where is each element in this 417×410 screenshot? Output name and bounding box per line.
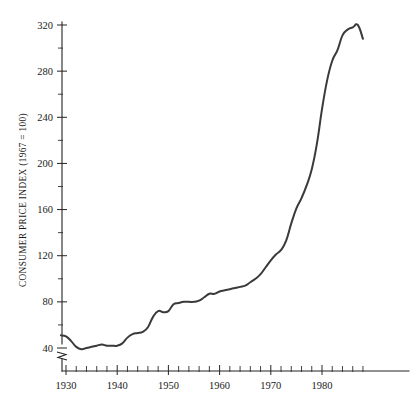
y-tick-label: 240 bbox=[37, 112, 53, 123]
x-tick-label: 1960 bbox=[209, 380, 230, 391]
cpi-chart-figure: 4080120160200240280320193019401950196019… bbox=[0, 0, 417, 410]
axes-group bbox=[57, 22, 409, 371]
y-tick-label: 320 bbox=[37, 20, 53, 31]
x-tick-label: 1930 bbox=[56, 380, 77, 391]
x-tick-label: 1950 bbox=[158, 380, 179, 391]
y-tick-label: 80 bbox=[43, 296, 54, 307]
y-tick-label: 160 bbox=[37, 204, 53, 215]
y-axis-title-text: CONSUMER PRICE INDEX (1967 = 100) bbox=[18, 113, 29, 287]
x-tick-label: 1970 bbox=[260, 380, 281, 391]
y-tick-label: 40 bbox=[43, 343, 54, 354]
tick-labels-group: 4080120160200240280320193019401950196019… bbox=[37, 20, 332, 391]
cpi-data-line bbox=[61, 24, 363, 349]
y-tick-label: 200 bbox=[37, 158, 53, 169]
y-tick-label: 280 bbox=[37, 66, 53, 77]
x-tick-label: 1940 bbox=[107, 380, 128, 391]
x-tick-label: 1980 bbox=[312, 380, 333, 391]
y-tick-label: 120 bbox=[37, 250, 53, 261]
chart-plot-area: 4080120160200240280320193019401950196019… bbox=[0, 0, 417, 410]
y-axis-title: CONSUMER PRICE INDEX (1967 = 100) bbox=[18, 113, 29, 287]
tick-marks-group bbox=[57, 25, 363, 375]
